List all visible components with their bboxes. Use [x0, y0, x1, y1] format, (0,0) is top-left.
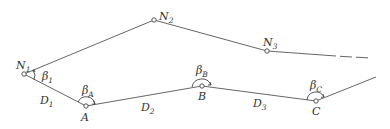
label-d2: D2 [140, 101, 155, 116]
known-line-n3-continuation [267, 51, 336, 56]
dash-segment [340, 56, 352, 57]
dash-segment [356, 57, 368, 58]
traverse-diagram: N1 N2 N3 A B C β1 βA βB βC D1 D2 D3 [0, 0, 390, 129]
label-n1: N1 [15, 59, 30, 74]
label-c: C [312, 105, 321, 118]
label-beta-c: βC [309, 79, 322, 94]
point-a [84, 104, 88, 108]
point-n2 [152, 18, 156, 22]
known-line-n1-n2-n3 [24, 20, 267, 74]
label-b: B [197, 90, 206, 103]
point-n3 [265, 49, 269, 53]
point-c [314, 99, 318, 103]
label-n2: N2 [158, 10, 174, 25]
label-d1: D1 [39, 94, 54, 109]
label-n3: N3 [262, 36, 278, 51]
label-a: A [80, 111, 89, 124]
label-d3: D3 [252, 97, 267, 112]
diagram-svg: N1 N2 N3 A B C β1 βA βB βC D1 D2 D3 [0, 0, 390, 129]
label-beta-b: βB [195, 64, 208, 79]
point-b [200, 84, 204, 88]
label-beta-a: βA [81, 84, 94, 99]
label-beta-1: β1 [41, 70, 53, 85]
